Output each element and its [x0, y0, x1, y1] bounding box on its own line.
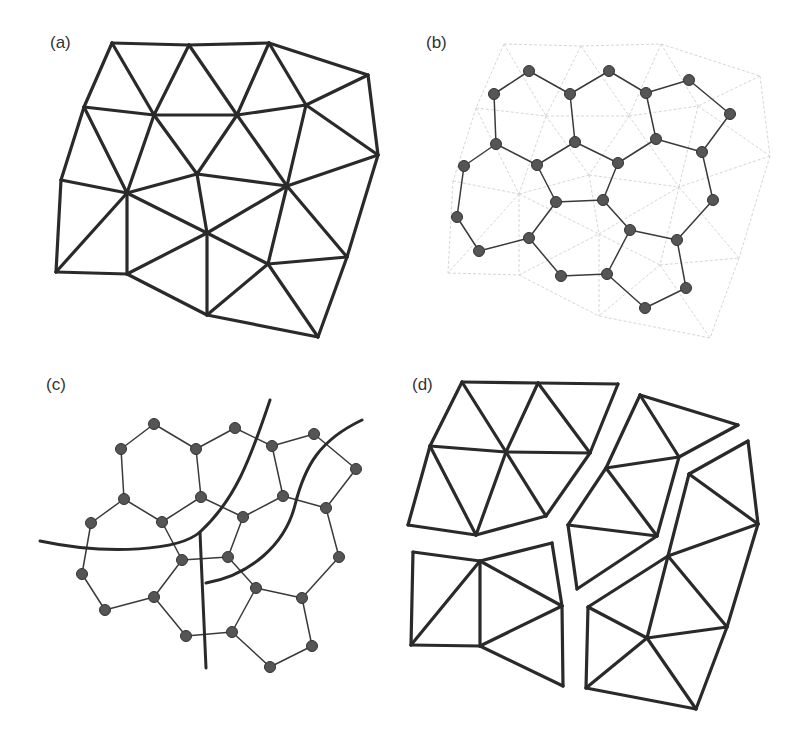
- fragment-edge: [588, 607, 647, 638]
- mesh-edge: [268, 186, 287, 264]
- graph-node: [86, 518, 97, 529]
- graph-edge: [689, 80, 730, 114]
- graph-edge: [283, 496, 326, 508]
- mesh-edge: [207, 264, 268, 315]
- mesh-edge: [112, 43, 189, 45]
- faint-mesh-edge: [710, 258, 739, 338]
- graph-edge: [121, 424, 154, 449]
- fragment-edge: [476, 452, 506, 535]
- mesh-edge: [197, 174, 207, 233]
- mesh-edge: [154, 115, 197, 174]
- faint-mesh-edge: [599, 316, 710, 338]
- mesh-edge: [207, 186, 287, 233]
- fragment-edge: [586, 607, 588, 688]
- fragment-edge: [668, 524, 758, 556]
- fragment-edge: [408, 446, 430, 525]
- faint-mesh-edge: [476, 108, 519, 194]
- graph-edge: [556, 200, 603, 202]
- graph-node: [223, 552, 234, 563]
- mesh-edge: [61, 180, 127, 193]
- faint-mesh-edge: [546, 46, 581, 116]
- graph-node: [570, 137, 581, 148]
- faint-mesh-edge: [589, 175, 599, 234]
- graph-edge: [228, 557, 256, 588]
- fragment-edge: [606, 468, 657, 536]
- graph-node: [684, 75, 695, 86]
- faint-mesh-edge: [448, 273, 519, 275]
- graph-node: [251, 583, 262, 594]
- graph-edge: [537, 165, 556, 202]
- graph-edge: [243, 496, 283, 517]
- panel-b-label: (b): [426, 33, 447, 52]
- graph-node: [351, 464, 362, 475]
- fragment-edge: [689, 474, 758, 524]
- graph-node: [452, 212, 463, 223]
- dual-graph-cut: [77, 419, 362, 673]
- faint-mesh-edge: [589, 175, 679, 187]
- graph-node: [532, 160, 543, 171]
- fragment-edge: [408, 525, 476, 535]
- graph-node: [474, 246, 485, 257]
- graph-node: [181, 631, 192, 642]
- graph-node: [227, 627, 238, 638]
- graph-edge: [570, 94, 575, 142]
- graph-node: [267, 441, 278, 452]
- graph-edge: [656, 139, 702, 152]
- graph-edge: [105, 597, 154, 610]
- faint-mesh-edge: [660, 187, 679, 265]
- faint-mesh-edge: [629, 106, 698, 116]
- graph-edge: [607, 230, 630, 274]
- graph-edge: [270, 646, 312, 667]
- graph-node: [604, 66, 615, 77]
- fragment-edge: [480, 561, 562, 606]
- fragment-edge: [462, 382, 506, 452]
- graph-node: [309, 429, 320, 440]
- graph-edge: [677, 240, 686, 288]
- graph-edge: [646, 80, 689, 93]
- graph-edge: [302, 598, 312, 646]
- faint-mesh-edge: [760, 76, 770, 156]
- fragment-edge: [506, 452, 546, 516]
- fragment-edge: [480, 646, 563, 686]
- mesh-edge: [56, 193, 127, 272]
- mesh-edge: [127, 174, 197, 193]
- graph-node: [191, 444, 202, 455]
- mesh-edge: [197, 174, 287, 186]
- graph-edge: [162, 522, 182, 560]
- graph-node: [489, 89, 500, 100]
- graph-edge: [232, 588, 256, 632]
- graph-node: [725, 109, 736, 120]
- graph-edge: [630, 230, 677, 240]
- mesh-edge: [61, 107, 84, 180]
- graph-edge: [302, 557, 339, 598]
- graph-edge: [154, 424, 196, 449]
- graph-edge: [609, 71, 646, 93]
- graph-edge: [575, 142, 618, 163]
- faint-mesh-edge: [660, 265, 710, 338]
- mesh-edge: [84, 107, 127, 193]
- graph-node: [524, 66, 535, 77]
- mesh-edge: [347, 155, 378, 257]
- mesh-edge: [56, 272, 127, 274]
- mesh-edge: [237, 105, 306, 115]
- fragment-edge: [430, 382, 462, 446]
- faint-mesh-edge: [581, 44, 661, 46]
- fragment-edge: [647, 638, 696, 709]
- faint-mesh-edge: [661, 44, 760, 76]
- graph-node: [157, 517, 168, 528]
- fragment-edge: [590, 384, 618, 453]
- mesh-edge: [189, 45, 237, 115]
- mesh-edge: [306, 105, 378, 155]
- fragment-edge: [606, 457, 679, 468]
- graph-node: [321, 503, 332, 514]
- panel-c-label: (c): [46, 375, 66, 394]
- mesh-edge: [84, 43, 112, 107]
- graph-edge: [272, 446, 283, 496]
- fragment-edge: [647, 627, 727, 638]
- fragment-edge: [430, 446, 506, 452]
- graph-edge: [529, 238, 561, 276]
- graph-edge: [529, 202, 556, 238]
- faint-mesh-edge: [629, 44, 661, 116]
- graph-edge: [121, 449, 124, 499]
- fragment-edge: [506, 383, 538, 452]
